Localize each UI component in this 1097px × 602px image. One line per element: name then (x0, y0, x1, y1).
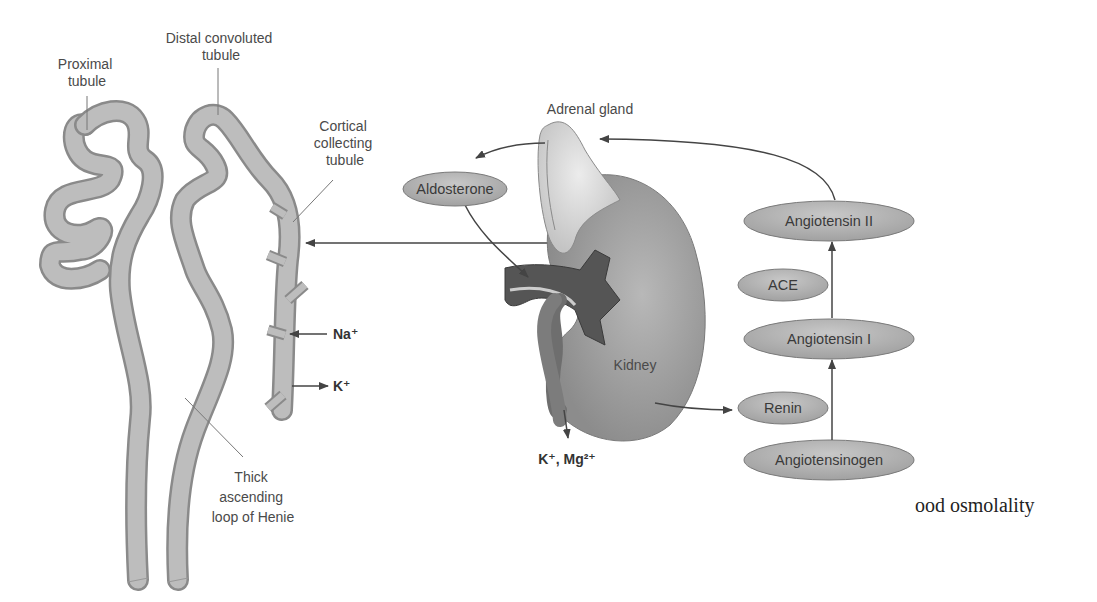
renin-angiotensin-aldosterone-diagram: Proximal tubule Distal convoluted tubule… (0, 0, 1097, 602)
label-thick-ascending-loop: Thick ascending loop of Henie (212, 469, 295, 525)
svg-text:ACE: ACE (768, 277, 798, 293)
k-arrow: K⁺ (292, 378, 351, 394)
label-adrenal-gland: Adrenal gland (547, 101, 633, 117)
label-cortical-collecting-tubule: Cortical collecting tubule (314, 118, 376, 168)
node-ace: ACE (738, 269, 828, 301)
label-distal-convoluted-tubule: Distal convoluted tubule (166, 30, 277, 63)
adrenal-to-aldosterone-arrow (476, 143, 545, 158)
node-angiotensin-ii: Angiotensin II (744, 201, 914, 241)
label-k-ion: K⁺ (333, 378, 351, 394)
na-arrow: Na⁺ (290, 326, 358, 342)
svg-text:Angiotensin I: Angiotensin I (787, 331, 871, 347)
svg-text:Angiotensinogen: Angiotensinogen (775, 452, 883, 468)
label-kidney: Kidney (614, 357, 657, 373)
node-angiotensin-i: Angiotensin I (744, 319, 914, 359)
node-renin: Renin (738, 392, 828, 424)
node-angiotensinogen: Angiotensinogen (744, 440, 914, 480)
svg-text:Renin: Renin (764, 400, 802, 416)
proximal-tubule (50, 96, 153, 580)
label-na-ion: Na⁺ (333, 326, 358, 342)
node-aldosterone: Aldosterone (403, 172, 507, 206)
svg-text:Angiotensin II: Angiotensin II (785, 213, 873, 229)
label-proximal-tubule: Proximal tubule (58, 56, 116, 89)
kidney: Kidney (505, 175, 705, 441)
label-k-mg-ions: K⁺, Mg²⁺ (538, 451, 596, 467)
cut-off-osmolality-text: ood osmolality (915, 494, 1034, 517)
svg-text:Aldosterone: Aldosterone (416, 181, 493, 197)
